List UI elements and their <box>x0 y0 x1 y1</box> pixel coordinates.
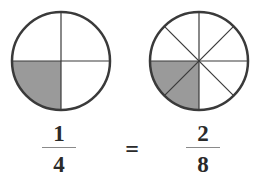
fraction-bar <box>42 147 76 148</box>
fraction-bar <box>186 147 220 148</box>
denominator: 8 <box>183 153 223 176</box>
equals-sign: = <box>121 137 143 161</box>
numerator: 2 <box>183 122 223 145</box>
denominator: 4 <box>39 153 79 176</box>
circle-eighths <box>150 12 248 110</box>
numerator: 1 <box>39 122 79 145</box>
fraction-circles <box>0 0 253 120</box>
circle-quarters <box>12 12 110 110</box>
